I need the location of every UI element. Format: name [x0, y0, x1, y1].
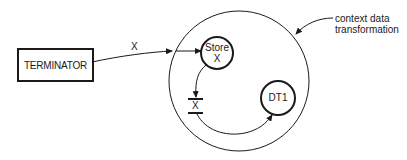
context-transformation-boundary[interactable]	[169, 11, 309, 151]
annotation-line1: context data	[335, 13, 399, 24]
store-x-node-label: Store X	[201, 42, 233, 64]
terminator-box[interactable]: TERMINATOR	[17, 48, 94, 82]
annotation-line2: transformation	[335, 24, 399, 35]
flow-datastore-to-dt1-arrow[interactable]	[197, 114, 272, 134]
dt1-node-label: DT1	[261, 92, 295, 103]
annotation-label: context data transformation	[335, 13, 399, 35]
flow-x-label: X	[131, 41, 138, 52]
flow-x-arrow[interactable]	[92, 51, 172, 62]
terminator-label: TERMINATOR	[24, 60, 87, 71]
store-x-line2: X	[201, 53, 233, 64]
annotation-pointer-arrow	[296, 18, 333, 34]
flow-store-to-datastore-arrow[interactable]	[196, 65, 206, 97]
store-x-line1: Store	[201, 42, 233, 53]
data-store-label: X	[192, 100, 199, 111]
